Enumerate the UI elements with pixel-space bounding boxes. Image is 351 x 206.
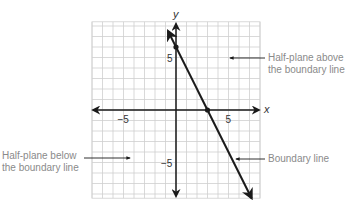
annotation-boundary-text: Boundary line [268, 153, 329, 165]
annotation-above-line1: Half-plane above [268, 52, 345, 64]
annotation-boundary-line: Boundary line [268, 153, 329, 165]
annotation-half-plane-below: Half-plane below the boundary line [2, 150, 79, 174]
coordinate-plane: −555−5xy [0, 0, 351, 206]
annotation-half-plane-above: Half-plane above the boundary line [268, 52, 345, 76]
svg-text:x: x [263, 103, 270, 115]
svg-text:5: 5 [167, 53, 173, 64]
annotation-below-line1: Half-plane below [2, 150, 79, 162]
svg-text:5: 5 [226, 114, 232, 125]
svg-text:−5: −5 [118, 114, 130, 125]
svg-text:−5: −5 [161, 158, 173, 169]
annotation-below-line2: the boundary line [2, 162, 79, 174]
annotation-arrows [84, 58, 265, 159]
annotation-above-line2: the boundary line [268, 64, 345, 76]
svg-text:y: y [172, 8, 180, 20]
tick-labels: −555−5xy [118, 8, 271, 169]
axes [93, 24, 259, 196]
